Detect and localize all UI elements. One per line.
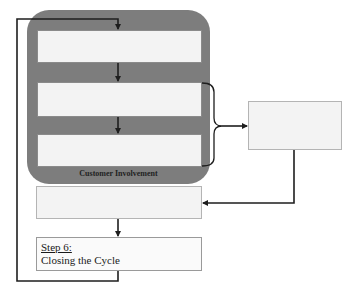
connectors-layer [0,0,355,298]
brace-icon [202,83,222,166]
arrow-step4-step5 [203,150,294,203]
loop-back-connector [17,19,118,281]
